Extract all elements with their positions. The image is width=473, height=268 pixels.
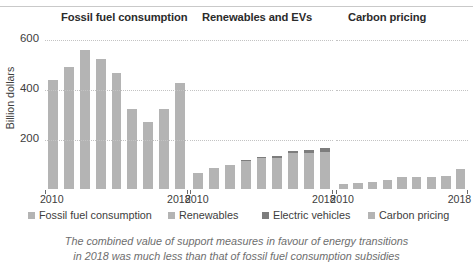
legend-item-fossil-fuel-consumption: Fossil fuel consumption <box>28 209 152 221</box>
y-tick-400: 400 <box>5 82 39 94</box>
panel-fossil-fuel-consumption: 2010 2018 <box>45 30 188 190</box>
bar <box>441 176 450 189</box>
top-divider <box>0 6 473 7</box>
chart-legend: Fossil fuel consumption Renewables Elect… <box>0 209 473 225</box>
bar <box>193 173 203 190</box>
y-tick-600: 600 <box>5 32 39 44</box>
legend-swatch-electric-vehicles <box>262 212 269 219</box>
bar <box>96 59 106 189</box>
panel-titles: Fossil fuel consumption Renewables and E… <box>0 11 473 29</box>
caption-line-1: The combined value of support measures i… <box>0 234 473 249</box>
panel-renewables-and-evs: 2010 2018 <box>190 30 333 190</box>
gridline-600 <box>45 40 188 41</box>
bar <box>320 148 330 190</box>
bar <box>241 160 251 190</box>
bar <box>288 151 298 189</box>
chart-plot-area: Billion dollars 600 400 200 2010 2018 20… <box>0 30 473 205</box>
bar-segment-electric-vehicles <box>320 148 330 152</box>
panel-carbon-pricing: 2010 2018 <box>336 30 468 190</box>
bar-group-fossil-fuel-consumption <box>45 30 188 189</box>
bar <box>456 169 465 189</box>
bar <box>143 122 153 190</box>
gridline-600 <box>190 40 333 41</box>
panel-title-renewables-and-evs: Renewables and EVs <box>202 11 312 23</box>
legend-item-electric-vehicles: Electric vehicles <box>262 209 350 221</box>
bar-segment-electric-vehicles <box>257 157 267 158</box>
x-label-2010: 2010 <box>185 193 209 205</box>
bar <box>257 157 267 189</box>
bar <box>48 80 58 189</box>
legend-item-renewables: Renewables <box>168 209 238 221</box>
bar <box>127 109 137 189</box>
bar-group-carbon-pricing <box>336 30 468 189</box>
bar <box>64 67 74 190</box>
y-axis-tick-labels: 600 400 200 <box>5 30 39 190</box>
bar-segment-electric-vehicles <box>304 150 314 153</box>
legend-label-electric-vehicles: Electric vehicles <box>273 209 350 221</box>
gridline-400 <box>45 90 188 91</box>
legend-swatch-renewables <box>168 212 175 219</box>
legend-label-renewables: Renewables <box>179 209 238 221</box>
legend-swatch-carbon-pricing <box>368 212 375 219</box>
bar <box>80 50 90 189</box>
bar <box>272 156 282 189</box>
panel-title-carbon-pricing: Carbon pricing <box>348 11 426 23</box>
panel-title-fossil-fuel-consumption: Fossil fuel consumption <box>61 11 187 23</box>
bar-segment-electric-vehicles <box>241 160 251 161</box>
bar <box>397 177 406 189</box>
bar <box>209 168 219 190</box>
bar <box>225 165 235 190</box>
bar <box>383 180 392 190</box>
gridline-200 <box>336 140 468 141</box>
bar <box>412 177 421 190</box>
gridline-200 <box>190 140 333 141</box>
x-label-2010: 2010 <box>40 193 64 205</box>
gridline-600 <box>336 40 468 41</box>
legend-item-carbon-pricing: Carbon pricing <box>368 209 449 221</box>
legend-swatch-fossil-fuel-consumption <box>28 212 35 219</box>
bar <box>427 177 436 190</box>
gridline-200 <box>45 140 188 141</box>
bar <box>304 150 314 190</box>
bar <box>353 183 362 189</box>
bar <box>339 184 348 190</box>
bar <box>368 182 377 189</box>
legend-label-fossil-fuel-consumption: Fossil fuel consumption <box>39 209 152 221</box>
x-label-2010: 2010 <box>330 193 354 205</box>
gridline-400 <box>190 90 333 91</box>
bar <box>175 83 185 189</box>
caption-line-2: in 2018 was much less than that of fossi… <box>0 249 473 264</box>
y-tick-200: 200 <box>5 132 39 144</box>
bar-group-renewables-and-evs <box>190 30 333 189</box>
gridline-400 <box>336 90 468 91</box>
x-label-2018: 2018 <box>448 193 472 205</box>
bar-segment-electric-vehicles <box>272 156 282 157</box>
bar <box>159 109 169 189</box>
chart-caption: The combined value of support measures i… <box>0 234 473 264</box>
bar-segment-electric-vehicles <box>288 151 298 153</box>
legend-label-carbon-pricing: Carbon pricing <box>379 209 449 221</box>
